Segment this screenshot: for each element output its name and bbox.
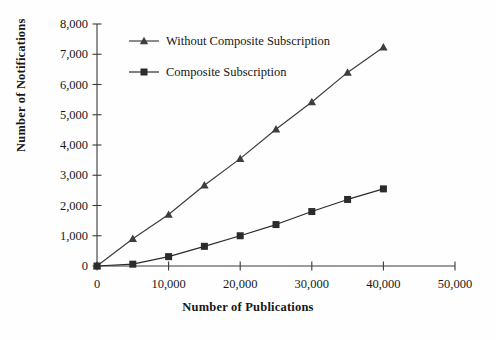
x-tick-label: 40,000	[366, 277, 400, 292]
x-tick-label: 0	[94, 277, 100, 292]
y-tick-label: 6,000	[60, 77, 88, 92]
y-tick-label: 4,000	[60, 138, 88, 153]
chart-figure: Number of Notifications Number of Public…	[0, 0, 496, 340]
legend-marker-group	[129, 37, 159, 76]
x-axis-title: Number of Publications	[0, 300, 496, 315]
y-tick-label: 1,000	[60, 228, 88, 243]
y-tick-label: 3,000	[60, 168, 88, 183]
y-tick-label: 2,000	[60, 198, 88, 213]
y-tick-label: 7,000	[60, 47, 88, 62]
x-tick-label: 50,000	[438, 277, 472, 292]
x-tick-label: 30,000	[295, 277, 329, 292]
x-tick-label: 10,000	[151, 277, 185, 292]
legend-item-label: Without Composite Subscription	[166, 34, 330, 49]
y-tick-label: 5,000	[60, 107, 88, 122]
y-tick-label: 0	[82, 259, 88, 274]
axis-lines	[97, 24, 455, 266]
legend-item-label: Composite Subscription	[166, 65, 287, 80]
tick-marks	[93, 24, 456, 271]
y-tick-label: 8,000	[60, 17, 88, 32]
x-tick-label: 20,000	[223, 277, 257, 292]
y-axis-title: Number of Notifications	[14, 18, 29, 152]
